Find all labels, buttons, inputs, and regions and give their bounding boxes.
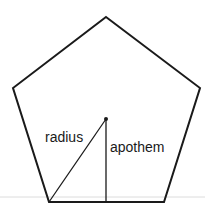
radius-label: radius — [45, 129, 83, 145]
center-point — [104, 117, 108, 121]
pentagon-diagram: radius apothem — [0, 0, 205, 215]
apothem-label: apothem — [110, 139, 164, 155]
